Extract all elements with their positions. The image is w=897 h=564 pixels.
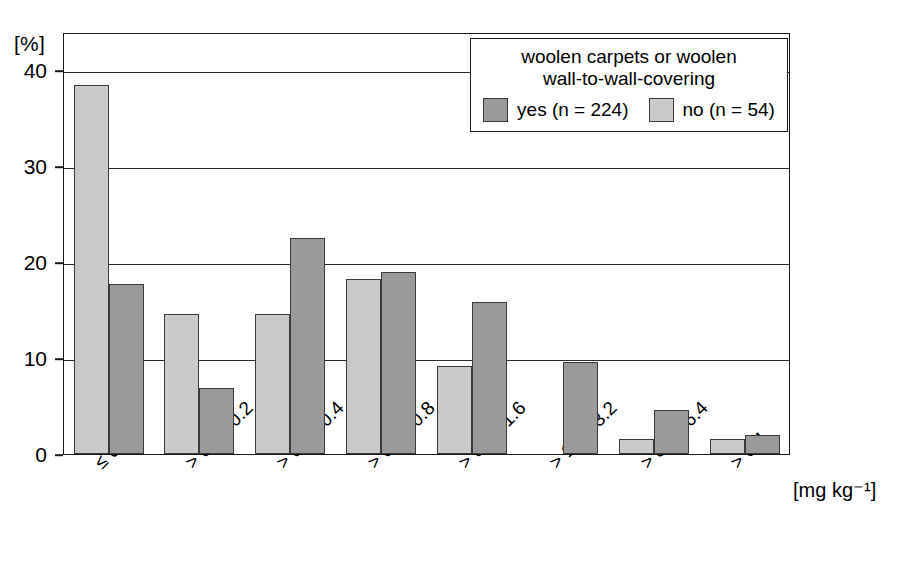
bar-no (255, 314, 290, 454)
chart-figure: [%] 010203040 ≤ 0.1> 0.1 - 0.2> 0.2 - 0.… (0, 0, 897, 564)
bar-no (619, 439, 654, 454)
y-axis-tick-label: 30 (24, 155, 47, 179)
legend-item-label: yes (n = 224) (517, 99, 628, 121)
bar-group (155, 34, 246, 454)
legend-title-line-1: woolen carpets or woolen (481, 46, 777, 68)
legend-item-label: no (n = 54) (683, 99, 775, 121)
bar-yes (381, 272, 416, 454)
y-axis-tick-label: 40 (24, 59, 47, 83)
bar-yes (745, 435, 780, 454)
x-axis-unit-label: [mg kg⁻¹] (793, 478, 876, 502)
legend-swatch-yes (483, 98, 508, 122)
y-axis-tick-mark (55, 262, 63, 264)
bar-yes (654, 410, 689, 454)
legend-items: yes (n = 224)no (n = 54) (481, 98, 777, 122)
bar-no (74, 85, 109, 454)
chart-legend: woolen carpets or woolen wall-to-wall-co… (470, 38, 788, 132)
y-axis-tick-label: 20 (24, 251, 47, 275)
bar-yes (199, 388, 234, 454)
legend-title-line-2: wall-to-wall-covering (481, 68, 777, 90)
bar-yes (563, 362, 598, 454)
y-axis-tick-mark (55, 358, 63, 360)
y-axis-tick-mark (55, 454, 63, 456)
bar-no (437, 366, 472, 454)
bar-group (337, 34, 428, 454)
bar-no (164, 314, 199, 454)
bar-no (346, 279, 381, 455)
bar-group (64, 34, 155, 454)
legend-item: yes (n = 224) (483, 98, 628, 122)
y-axis-tick-mark (55, 71, 63, 73)
bar-group (246, 34, 337, 454)
legend-item: no (n = 54) (649, 98, 775, 122)
y-axis-ticks: 010203040 (0, 33, 55, 455)
y-axis-tick-mark (55, 166, 63, 168)
bar-yes (472, 302, 507, 454)
y-axis-tick-label: 10 (24, 347, 47, 371)
bar-no (710, 439, 745, 454)
legend-title: woolen carpets or woolen wall-to-wall-co… (481, 46, 777, 91)
bar-yes (290, 238, 325, 454)
bar-yes (109, 284, 144, 454)
legend-swatch-no (649, 98, 674, 122)
x-axis-category-labels: ≤ 0.1> 0.1 - 0.2> 0.2 - 0.4> 0.4 - 0.8> … (0, 458, 897, 564)
